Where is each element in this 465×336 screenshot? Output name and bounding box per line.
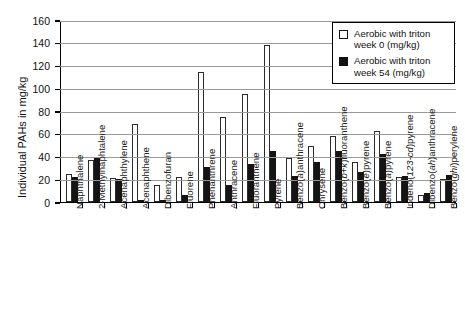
- y-tick-mark: [55, 134, 60, 135]
- x-axis-label: Naphthalene: [75, 155, 85, 209]
- x-axis-label: Fluorene: [185, 171, 195, 209]
- gridline: [60, 112, 456, 113]
- x-axis-label: Anthracene: [229, 160, 239, 209]
- x-axis-label: Pyrene: [273, 179, 283, 209]
- y-tick-label: 80: [16, 107, 50, 117]
- legend-label-week54: Aerobic with triton week 54 (mg/kg): [354, 55, 430, 77]
- x-axis-label: Benzo(b+k)fluoranthene: [339, 106, 349, 209]
- legend-label-week0-line2: week 0 (mg/kg): [354, 39, 420, 50]
- x-axis-label: Acenaphthylene: [119, 140, 129, 209]
- legend-item-week0: Aerobic with triton week 0 (mg/kg): [338, 28, 449, 50]
- x-axis-label: Benzo(a)anthracene: [295, 122, 305, 209]
- x-axis-label: Chrysene: [317, 168, 327, 209]
- legend: Aerobic with triton week 0 (mg/kg) Aerob…: [332, 22, 455, 84]
- y-tick-label: 60: [16, 129, 50, 139]
- y-tick-label: 100: [16, 84, 50, 94]
- legend-label-week54-line2: week 54 (mg/kg): [354, 67, 425, 78]
- x-axis-label: Indeno(123-cd)pyrene: [405, 115, 415, 209]
- y-tick-label: 120: [16, 61, 50, 71]
- legend-label-week54-line1: Aerobic with triton: [354, 55, 430, 66]
- y-tick-label: 20: [16, 175, 50, 185]
- x-axis-label: Phenanthrene: [207, 149, 217, 209]
- bar-chart: Individual PAHs in mg/kg 020406080100120…: [0, 0, 465, 336]
- legend-label-week0: Aerobic with triton week 0 (mg/kg): [354, 28, 430, 50]
- x-axis-label: Benzo(e)pyrene: [361, 141, 371, 209]
- legend-swatch-week54-icon: [339, 57, 348, 66]
- x-axis-label: Acenaphthene: [141, 147, 151, 209]
- bar-week0: [132, 124, 138, 202]
- x-axis-label: Dibenzofuran: [163, 152, 173, 209]
- y-tick-mark: [55, 89, 60, 90]
- x-axis-label: Benzo(ghi)perylene: [449, 126, 459, 209]
- y-tick-label: 40: [16, 152, 50, 162]
- y-tick-mark: [55, 157, 60, 158]
- x-axis-label: Dibenzo(ah)anthracene: [427, 109, 437, 209]
- legend-item-week54: Aerobic with triton week 54 (mg/kg): [338, 55, 449, 77]
- y-tick-mark: [55, 20, 60, 21]
- legend-label-week0-line1: Aerobic with triton: [354, 28, 430, 39]
- x-axis-label: 2-Methylnaphtalene: [97, 125, 107, 209]
- x-axis-labels: Naphthalene2-MethylnaphtaleneAcenaphthyl…: [60, 209, 456, 336]
- gridline: [60, 89, 456, 90]
- y-tick-label: 160: [16, 16, 50, 26]
- y-tick-label: 140: [16, 38, 50, 48]
- y-tick-mark: [55, 111, 60, 112]
- legend-swatch-week0-icon: [339, 30, 348, 39]
- x-axis-label: Fluoranthene: [251, 152, 261, 209]
- y-tick-mark: [55, 66, 60, 67]
- y-tick-mark: [55, 43, 60, 44]
- y-tick-mark: [55, 180, 60, 181]
- gridline: [60, 134, 456, 135]
- y-tick-label: 0: [16, 198, 50, 208]
- x-axis-label: Benzo(a)pyrene: [383, 141, 393, 209]
- y-tick-mark: [55, 202, 60, 203]
